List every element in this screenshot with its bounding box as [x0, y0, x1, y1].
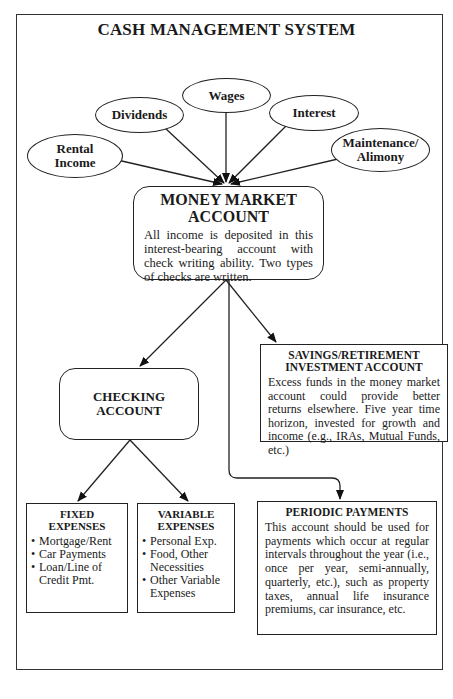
fixed-expenses-box: FIXED EXPENSES Mortgage/Rent Car Payment… — [26, 503, 128, 613]
checking-account-title: CHECKING ACCOUNT — [84, 390, 174, 418]
income-maintenance-alimony: Maintenance/ Alimony — [331, 128, 430, 172]
variable-expenses-title: VARIABLE EXPENSES — [148, 508, 224, 532]
checking-account-box: CHECKING ACCOUNT — [59, 368, 199, 440]
fixed-expenses-title: FIXED EXPENSES — [42, 508, 112, 532]
savings-title: SAVINGS/RETIREMENT INVESTMENT ACCOUNT — [268, 349, 440, 373]
periodic-payments-description: This account should be used for payments… — [265, 521, 429, 617]
income-dividends: Dividends — [95, 97, 184, 133]
income-rental: Rental Income — [27, 134, 123, 178]
income-dividends-label: Dividends — [112, 108, 168, 122]
variable-expenses-list: Personal Exp. Food, Other Necessities Ot… — [142, 535, 230, 600]
income-wages: Wages — [182, 78, 271, 113]
fixed-expenses-list: Mortgage/Rent Car Payments Loan/Line of … — [31, 535, 123, 587]
income-rental-label: Rental Income — [45, 142, 105, 170]
list-item: Other Variable Expenses — [142, 574, 230, 600]
income-interest: Interest — [269, 95, 359, 131]
money-market-account-box: MONEY MARKET ACCOUNT All income is depos… — [133, 186, 324, 280]
periodic-payments-box: PERIODIC PAYMENTS This account should be… — [257, 501, 437, 635]
money-market-title: MONEY MARKET ACCOUNT — [144, 191, 313, 225]
savings-retirement-box: SAVINGS/RETIREMENT INVESTMENT ACCOUNT Ex… — [260, 344, 448, 442]
variable-expenses-box: VARIABLE EXPENSES Personal Exp. Food, Ot… — [137, 503, 235, 613]
income-maintenance-label: Maintenance/ Alimony — [338, 136, 424, 164]
money-market-description: All income is deposited in this interest… — [144, 228, 313, 284]
income-wages-label: Wages — [208, 89, 244, 103]
savings-description: Excess funds in the money market account… — [268, 376, 440, 457]
periodic-payments-title: PERIODIC PAYMENTS — [265, 506, 429, 519]
income-interest-label: Interest — [292, 106, 335, 120]
list-item: Food, Other Necessities — [142, 548, 230, 574]
list-item: Loan/Line of Credit Pmt. — [31, 561, 123, 587]
